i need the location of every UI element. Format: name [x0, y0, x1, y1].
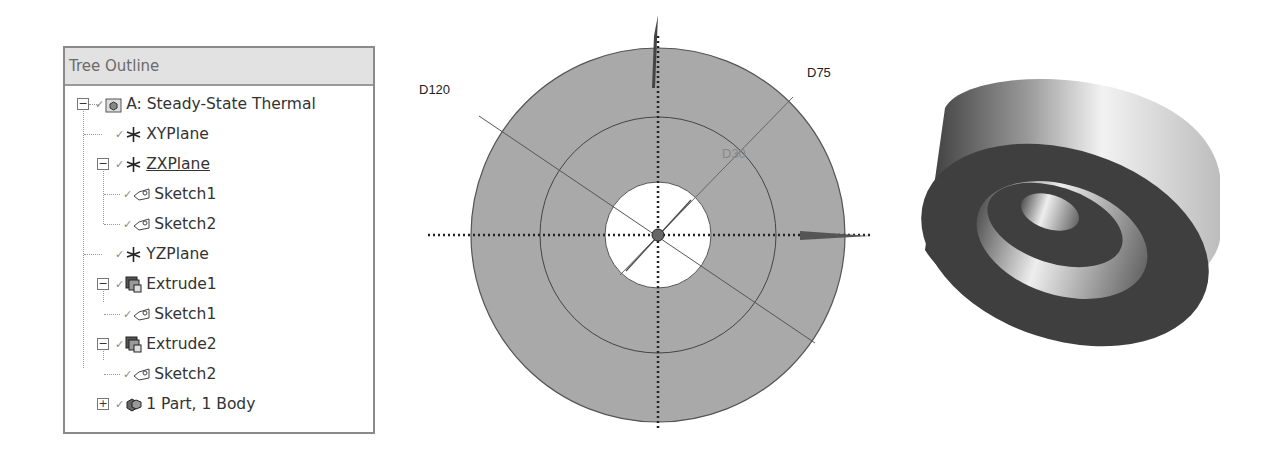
sketch-icon: [133, 366, 150, 383]
ring-body-render: [900, 40, 1240, 390]
sketch-icon: [133, 216, 150, 233]
dimension-inner-diameter[interactable]: D30: [722, 146, 746, 161]
sketch-icon: [133, 186, 150, 203]
collapse-toggle[interactable]: −: [97, 338, 109, 350]
plane-icon: [125, 126, 142, 143]
plane-icon: [125, 156, 142, 173]
check-icon: ✓: [123, 188, 132, 201]
part-body-icon: [125, 396, 142, 413]
extrude-icon: [125, 336, 142, 353]
check-icon: ✓: [115, 158, 124, 171]
check-icon: ✓: [123, 308, 132, 321]
check-icon: ✓: [123, 368, 132, 381]
tree-item-sketch1[interactable]: ✓ Sketch1: [123, 179, 216, 209]
collapse-toggle[interactable]: −: [77, 98, 89, 110]
tree-item-sketch2[interactable]: ✓ Sketch2: [123, 209, 216, 239]
collapse-toggle[interactable]: −: [97, 158, 109, 170]
check-icon: ✓: [123, 218, 132, 231]
tree-outline-panel: Tree Outline − ✓ A: Steady-State Thermal…: [63, 46, 375, 434]
tree-item-zxplane[interactable]: − ✓ ZXPlane: [95, 149, 210, 179]
tree-connector: [83, 108, 84, 368]
check-icon: ✓: [115, 398, 124, 411]
dimension-outer-diameter[interactable]: D120: [419, 82, 450, 97]
collapse-toggle[interactable]: −: [97, 278, 109, 290]
tree-item-steady-state-thermal[interactable]: − ✓ A: Steady-State Thermal: [65, 89, 316, 119]
tree-item-sketch1[interactable]: ✓ Sketch1: [123, 299, 216, 329]
plane-icon: [125, 246, 142, 263]
sketch-icon: [133, 306, 150, 323]
tree-item-yzplane[interactable]: ✓ YZPlane: [95, 239, 209, 269]
analysis-icon: [105, 96, 122, 113]
dimension-middle-diameter[interactable]: D75: [807, 65, 831, 80]
panel-title: Tree Outline: [65, 48, 373, 86]
tree-item-xyplane[interactable]: ✓ XYPlane: [95, 119, 209, 149]
check-icon: ✓: [115, 248, 124, 261]
tree-item-extrude2[interactable]: − ✓ Extrude2: [95, 329, 217, 359]
sketch-view[interactable]: D120 D75 D30: [400, 0, 880, 470]
tree-item-extrude1[interactable]: − ✓ Extrude1: [95, 269, 217, 299]
check-icon: ✓: [115, 128, 124, 141]
extrude-icon: [125, 276, 142, 293]
tree-item-part-body[interactable]: + ✓ 1 Part, 1 Body: [95, 389, 255, 419]
model-3d-view[interactable]: [900, 40, 1240, 390]
expand-toggle[interactable]: +: [97, 398, 109, 410]
check-icon: ✓: [115, 278, 124, 291]
tree-item-sketch2[interactable]: ✓ Sketch2: [123, 359, 216, 389]
check-icon: ✓: [115, 338, 124, 351]
